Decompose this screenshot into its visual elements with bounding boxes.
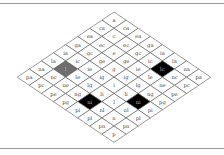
grid-cell-label: nl — [124, 107, 129, 113]
grid-cell-label: ec — [99, 42, 105, 48]
grid-cell-label: pl — [136, 115, 141, 122]
grid-cell-label: la — [51, 58, 56, 64]
grid-cell-label: pe — [50, 91, 56, 98]
grid-cell-label: ng — [74, 91, 81, 98]
grid-cell-label: pl — [87, 115, 92, 122]
grid-cell-label: li — [124, 91, 128, 97]
grid-cell-label: pc — [183, 82, 189, 89]
grid-cell-label: pc — [38, 82, 44, 89]
grid-cell-label: ne — [62, 82, 68, 88]
grid-cell-label: pa — [195, 74, 201, 81]
grid-cell-label: pi — [75, 107, 80, 114]
grid-cell-label: pe — [171, 91, 177, 98]
grid-cell-label: ca — [99, 25, 105, 31]
grid-cell-label: na — [183, 66, 189, 72]
grid-cell-label: ca — [123, 25, 129, 31]
grid-cell-label: nc — [171, 74, 177, 80]
grid-cell-label: pn — [99, 123, 106, 130]
grid-cell-label: ie — [136, 66, 141, 72]
grid-cell-label: pa — [26, 74, 32, 81]
grid-cell-label: pi — [148, 107, 153, 114]
grid-cell-label: c — [113, 33, 116, 39]
grid-cell-label: la — [172, 58, 177, 64]
grid-cell-label: ni — [136, 99, 141, 105]
grid-cell-label: pg — [159, 99, 166, 106]
grid-cell-label: ie — [87, 66, 92, 72]
grid-cell-label: ni — [87, 99, 92, 105]
grid-cell-label: ea — [135, 33, 141, 39]
grid-cell-label: nc — [50, 74, 56, 80]
grid-cell-label: ec — [123, 42, 129, 48]
grid-cell-label: ne — [159, 82, 165, 88]
grid-cell-label: li — [100, 91, 104, 97]
grid-cell-label: ga — [147, 42, 153, 49]
grid-cell-label: lg — [87, 82, 93, 89]
grid-cell-label: gc — [87, 50, 93, 57]
grid-cell-label: ia — [160, 50, 165, 56]
grid-cell-label: ng — [147, 91, 154, 98]
grid-cell-label: ga — [74, 42, 80, 49]
grid-cell-label: ic — [148, 58, 153, 64]
grid-cell-label: gc — [135, 50, 141, 57]
grid-cell-label: ig — [124, 74, 130, 81]
grid-cell-label: a — [112, 17, 115, 23]
grid-cell-label: nl — [99, 107, 104, 113]
grid-cell-label: e — [112, 50, 115, 56]
grid-cell-label: pg — [62, 99, 69, 106]
grid-cell-label: le — [75, 74, 80, 80]
grid-cell-label: le — [148, 74, 153, 80]
grid-cell-label: ig — [99, 74, 105, 81]
grid-cell-label: lc — [160, 66, 165, 72]
grid-cell-label: ge — [99, 58, 105, 65]
grid-cell-label: ge — [123, 58, 129, 65]
grid-cell-label: pn — [123, 123, 130, 130]
grid-cell-label: ia — [63, 50, 68, 56]
grid-cell-label: lg — [136, 82, 142, 89]
grid-cell-label: na — [38, 66, 44, 72]
grid-cell-label: ic — [75, 58, 80, 64]
isometric-grid-diagram: acaeagaialanapacacecgciclcncpceaecegeiel… — [0, 0, 224, 155]
grid-cell-label: ea — [87, 33, 93, 39]
